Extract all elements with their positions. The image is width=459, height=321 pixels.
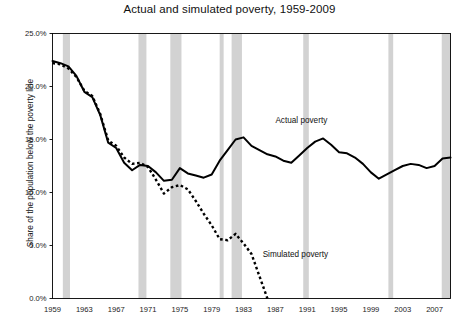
y-tick-label: 5.0% [29, 241, 47, 250]
poverty-chart-figure: Actual and simulated poverty, 1959-2009 … [0, 0, 459, 321]
series-annotations: Actual povertySimulated poverty [263, 116, 329, 260]
y-tick-label: 20.0% [25, 82, 47, 91]
y-axis-ticks: 0.0%5.0%10.0%15.0%20.0%25.0% [25, 29, 53, 303]
chart-plot-area: 0.0%5.0%10.0%15.0%20.0%25.0% 19591963196… [0, 0, 459, 321]
x-axis-ticks: 1959196319671971197519791983198719911995… [44, 305, 443, 314]
x-tick-label: 1971 [140, 305, 157, 314]
recession-band [220, 34, 224, 299]
x-tick-label: 1975 [171, 305, 188, 314]
x-tick-label: 1979 [203, 305, 220, 314]
x-tick-label: 1983 [235, 305, 252, 314]
y-tick-label: 25.0% [25, 29, 47, 38]
series-annotation-simulated-poverty: Simulated poverty [263, 250, 329, 259]
recession-band [388, 34, 393, 299]
y-tick-label: 0.0% [29, 294, 47, 303]
recession-band [232, 34, 242, 299]
y-tick-label: 15.0% [25, 135, 47, 144]
recession-bands-group [63, 34, 451, 299]
x-tick-label: 1987 [267, 305, 284, 314]
recession-band [170, 34, 181, 299]
x-tick-label: 1991 [299, 305, 316, 314]
recession-band [442, 34, 451, 299]
x-tick-label: 2003 [394, 305, 411, 314]
x-tick-label: 1995 [331, 305, 348, 314]
series-annotation-actual-poverty: Actual poverty [275, 116, 328, 125]
y-tick-label: 10.0% [25, 188, 47, 197]
x-tick-label: 1999 [362, 305, 379, 314]
recession-band [63, 34, 70, 299]
x-tick-label: 1959 [44, 305, 61, 314]
x-tick-label: 1967 [108, 305, 125, 314]
x-tick-label: 1963 [76, 305, 93, 314]
x-tick-label: 2007 [426, 305, 443, 314]
